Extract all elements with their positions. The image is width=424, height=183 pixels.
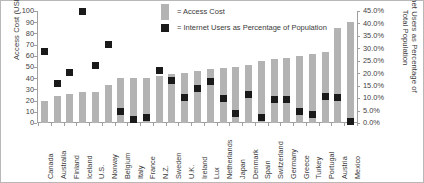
marker-spain xyxy=(258,114,265,121)
y-axis-right-tick-label: 40.0% xyxy=(363,20,384,27)
x-axis-label-switzerland: Switzerland xyxy=(277,141,284,179)
marker-turkey xyxy=(309,111,316,118)
x-axis-label-canada: Canada xyxy=(47,153,54,179)
marker-u-s xyxy=(92,62,99,69)
y-axis-right-tick-label: 0.0% xyxy=(363,119,380,126)
marker-italy xyxy=(130,116,137,123)
y-axis-right-tick-mark xyxy=(357,73,360,74)
y-axis-right-tick-label: 30.0% xyxy=(363,45,384,52)
legend-item-internet-users-label: = Internet Users as Percentage of Popula… xyxy=(177,24,327,32)
x-axis-label-portugal: Portugal xyxy=(328,152,335,179)
bar-canada xyxy=(41,101,48,123)
legend-item-access-cost-label: = Access Cost xyxy=(177,8,225,16)
x-axis-category-labels: CanadaAustraliaFinlandIcelandU.S.NorwayB… xyxy=(38,124,357,182)
y-axis-left-tick-label: 100 xyxy=(22,7,34,14)
x-axis-label-lux: Lux xyxy=(213,167,220,179)
y-axis-left-tick-label: 30 xyxy=(26,86,34,93)
marker-finland xyxy=(66,69,73,76)
y-axis-right-tick-label: 25.0% xyxy=(363,57,384,64)
y-axis-left-tick-label: 40 xyxy=(26,75,34,82)
x-axis-label-austria: Austria xyxy=(341,156,348,179)
x-axis-label-denmark: Denmark xyxy=(252,149,259,179)
marker-swatch-icon xyxy=(161,24,169,32)
bar-n-z xyxy=(156,76,163,123)
bar-belgium xyxy=(117,78,124,123)
y-axis-right-title: Internet Users as Percentage of Total Po… xyxy=(400,0,417,98)
marker-lux xyxy=(207,78,214,85)
y-axis-right-tick-mark xyxy=(357,111,360,112)
y-axis-left-tick-mark xyxy=(34,22,37,23)
y-axis-right-tick-label: 45.0% xyxy=(363,7,384,14)
marker-australia xyxy=(54,80,61,87)
chart-legend: = Access Cost = Internet Users as Percen… xyxy=(161,3,361,37)
marker-germany xyxy=(283,96,290,103)
y-axis-left-tick-mark xyxy=(34,123,37,124)
x-axis-label-turkey: Turkey xyxy=(315,157,322,179)
marker-switzerland xyxy=(271,96,278,103)
bar-germany xyxy=(283,58,290,123)
y-axis-right-tick-mark xyxy=(357,98,360,99)
y-axis-right-tick-mark xyxy=(357,61,360,62)
marker-sweden xyxy=(168,77,175,84)
x-axis-label-iceland: Iceland xyxy=(86,155,93,179)
y-axis-left-tick-mark xyxy=(34,11,37,12)
y-axis-right-ticks: 0.0%5.0%10.0%15.0%20.0%25.0%30.0%35.0%40… xyxy=(357,1,385,131)
bar-u-s xyxy=(92,92,99,123)
y-axis-right-tick-mark xyxy=(357,86,360,87)
x-axis-label-italy: Italy xyxy=(137,166,144,179)
bar-norway xyxy=(105,85,112,123)
x-axis-label-ireland: Ireland xyxy=(201,157,208,179)
x-axis-label-france: France xyxy=(149,156,156,179)
bar-ireland xyxy=(194,71,201,123)
y-axis-left-tick-mark xyxy=(34,33,37,34)
marker-japan xyxy=(232,110,239,117)
y-axis-left-tick-label: 80 xyxy=(26,30,34,37)
marker-greece xyxy=(296,108,303,115)
y-axis-right-tick-label: 5.0% xyxy=(363,107,380,114)
bar-finland xyxy=(66,94,73,123)
y-axis-left-tick-label: 60 xyxy=(26,52,34,59)
x-axis-label-germany: Germany xyxy=(290,149,297,179)
marker-iceland xyxy=(79,8,86,15)
x-axis-label-australia: Australia xyxy=(60,151,67,179)
y-axis-left-tick-mark xyxy=(34,112,37,113)
x-axis-label-mexico: Mexico xyxy=(354,156,361,179)
y-axis-right-tick-label: 10.0% xyxy=(363,94,384,101)
x-axis-label-n-z: N.Z. xyxy=(162,165,169,179)
marker-austria xyxy=(334,94,341,101)
x-axis-label-u-k: U.K. xyxy=(188,165,195,179)
x-axis-label-sweden: Sweden xyxy=(175,153,182,179)
y-axis-left-tick-mark xyxy=(34,45,37,46)
y-axis-left-ticks: 0102030405060708090100 xyxy=(15,1,37,131)
marker-denmark xyxy=(245,91,252,98)
bar-austria xyxy=(334,28,341,123)
marker-portugal xyxy=(322,93,329,100)
y-axis-left-tick-label: 70 xyxy=(26,41,34,48)
marker-u-k xyxy=(181,94,188,101)
marker-belgium xyxy=(117,108,124,115)
y-axis-left-tick-label: 50 xyxy=(26,63,34,70)
marker-n-z xyxy=(156,67,163,74)
bar-swatch-icon xyxy=(161,4,169,20)
bar-mexico xyxy=(347,22,354,123)
marker-france xyxy=(143,114,150,121)
bar-portugal xyxy=(322,52,329,123)
x-axis-label-norway: Norway xyxy=(111,154,118,179)
y-axis-right-tick-label: 20.0% xyxy=(363,70,384,77)
y-axis-left-tick-label: 10 xyxy=(26,108,34,115)
x-axis-label-u-s: U.S. xyxy=(98,165,105,179)
y-axis-left-tick-mark xyxy=(34,89,37,90)
x-axis-tick-mark xyxy=(357,123,358,126)
x-axis-label-spain: Spain xyxy=(264,160,271,179)
bar-australia xyxy=(54,96,61,123)
y-axis-left-tick-label: 20 xyxy=(26,97,34,104)
marker-ireland xyxy=(194,85,201,92)
y-axis-right-tick-label: 15.0% xyxy=(363,82,384,89)
legend-item-access-cost: = Access Cost xyxy=(161,4,225,20)
marker-canada xyxy=(41,48,48,55)
x-axis-label-japan: Japan xyxy=(239,159,246,179)
legend-item-internet-users: = Internet Users as Percentage of Popula… xyxy=(161,24,327,32)
y-axis-left-tick-label: 90 xyxy=(26,19,34,26)
x-axis-label-finland: Finland xyxy=(73,155,80,179)
y-axis-left-tick-mark xyxy=(34,67,37,68)
